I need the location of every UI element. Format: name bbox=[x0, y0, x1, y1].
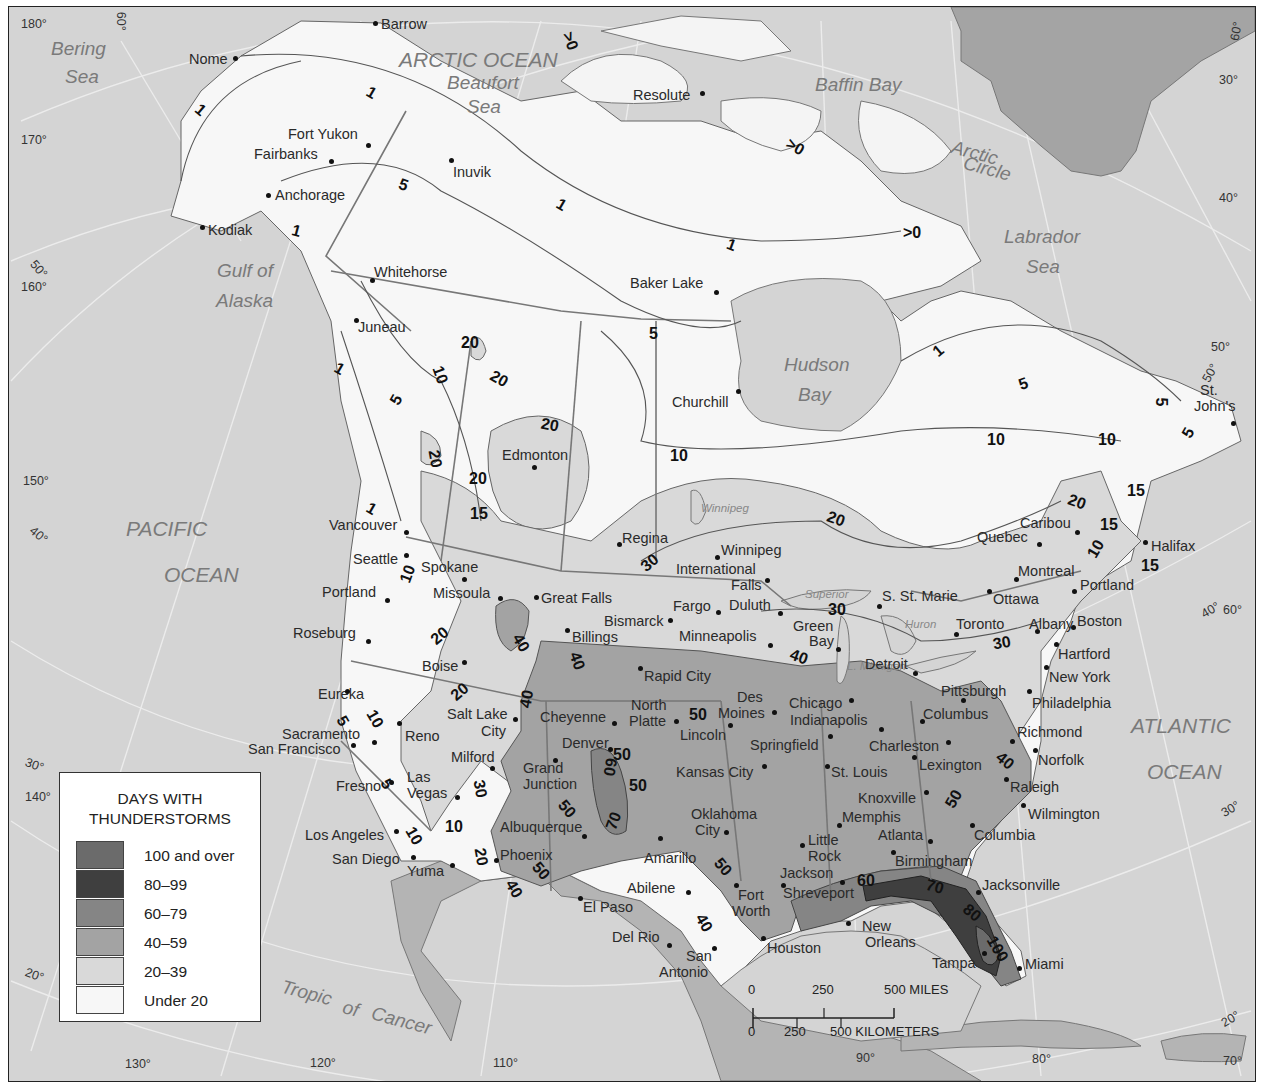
city-label: New York bbox=[1049, 670, 1110, 685]
legend-swatch-under-20 bbox=[76, 986, 124, 1014]
city-label: Birmingham bbox=[895, 854, 972, 869]
city-marker-icon bbox=[849, 698, 854, 703]
city-label: Fargo bbox=[673, 599, 711, 614]
isoline-value-label: 40 bbox=[517, 689, 536, 709]
city-marker-icon bbox=[667, 943, 672, 948]
city-label: Fairbanks bbox=[254, 147, 318, 162]
city-marker-icon bbox=[715, 555, 720, 560]
isoline-value-label: 60 bbox=[857, 873, 875, 889]
city-marker-icon bbox=[565, 628, 570, 633]
city-label: Falls bbox=[731, 578, 762, 593]
water-body-label: ATLANTIC bbox=[1131, 715, 1231, 736]
city-label: Memphis bbox=[842, 810, 901, 825]
city-label: Las bbox=[407, 770, 430, 785]
city-marker-icon bbox=[736, 389, 741, 394]
city-label: Philadelphia bbox=[1032, 696, 1111, 711]
city-marker-icon bbox=[712, 946, 717, 951]
city-label: Richmond bbox=[1017, 725, 1082, 740]
city-label: Fort bbox=[738, 888, 764, 903]
isoline-value-label: 15 bbox=[1141, 558, 1159, 574]
city-marker-icon bbox=[879, 727, 884, 732]
city-marker-icon bbox=[411, 855, 416, 860]
legend-title-line1: DAYS WITH bbox=[60, 789, 260, 809]
isoline-value-label: 20 bbox=[425, 449, 444, 469]
scale-km-0: 0 bbox=[748, 1024, 755, 1039]
lake-label: Winnipeg bbox=[701, 503, 749, 515]
city-label: Tampa bbox=[932, 956, 976, 971]
water-body-label: ARCTIC OCEAN bbox=[399, 49, 558, 70]
city-label: Sacramento bbox=[282, 727, 360, 742]
isoline-value-label: 30 bbox=[470, 779, 489, 799]
graticule-label: 80° bbox=[1032, 1053, 1051, 1066]
city-marker-icon bbox=[345, 689, 350, 694]
city-label: Roseburg bbox=[293, 626, 356, 641]
city-marker-icon bbox=[1071, 625, 1076, 630]
city-label: Columbus bbox=[923, 707, 988, 722]
city-label: Winnipeg bbox=[721, 543, 781, 558]
city-marker-icon bbox=[200, 225, 205, 230]
city-marker-icon bbox=[946, 740, 951, 745]
city-marker-icon bbox=[617, 542, 622, 547]
city-label: Moines bbox=[718, 706, 765, 721]
city-label: Ottawa bbox=[993, 592, 1039, 607]
city-marker-icon bbox=[373, 21, 378, 26]
city-marker-icon bbox=[658, 836, 663, 841]
city-label: Columbia bbox=[974, 828, 1035, 843]
city-label: Del Rio bbox=[612, 930, 660, 945]
city-label: Cheyenne bbox=[540, 710, 606, 725]
city-label: Regina bbox=[622, 531, 668, 546]
legend: DAYS WITH THUNDERSTORMS 100 and over 80–… bbox=[59, 772, 261, 1022]
city-marker-icon bbox=[800, 843, 805, 848]
city-label: North bbox=[631, 698, 666, 713]
city-marker-icon bbox=[404, 553, 409, 558]
city-label: Junction bbox=[523, 777, 577, 792]
city-marker-icon bbox=[724, 830, 729, 835]
legend-label-60-79: 60–79 bbox=[144, 905, 187, 923]
city-marker-icon bbox=[582, 834, 587, 839]
city-label: Springfield bbox=[750, 738, 819, 753]
isoline-value-label: 10 bbox=[445, 819, 463, 835]
water-body-label: Labrador bbox=[1004, 227, 1080, 246]
water-body-label: Bay bbox=[798, 385, 831, 404]
isoline-value-label: 15 bbox=[1100, 517, 1118, 533]
city-label: Bismarck bbox=[604, 614, 664, 629]
city-marker-icon bbox=[772, 710, 777, 715]
city-label: Billings bbox=[572, 630, 618, 645]
water-body-label: Bering bbox=[51, 39, 106, 58]
city-marker-icon bbox=[612, 721, 617, 726]
city-label: Rock bbox=[808, 849, 841, 864]
city-label: Albuquerque bbox=[500, 820, 582, 835]
city-marker-icon bbox=[913, 671, 918, 676]
legend-title: DAYS WITH THUNDERSTORMS bbox=[60, 789, 260, 829]
water-body-label: Alaska bbox=[216, 291, 273, 310]
city-label: Toronto bbox=[956, 617, 1004, 632]
city-label: Des bbox=[737, 690, 763, 705]
city-label: Halifax bbox=[1151, 539, 1195, 554]
city-marker-icon bbox=[532, 465, 537, 470]
legend-label-80-99: 80–99 bbox=[144, 876, 187, 894]
city-label: Churchill bbox=[672, 395, 728, 410]
city-marker-icon bbox=[1143, 540, 1148, 545]
city-marker-icon bbox=[490, 766, 495, 771]
city-label: Chicago bbox=[789, 696, 842, 711]
scale-km-500: 500 KILOMETERS bbox=[830, 1024, 939, 1039]
graticule-label: 110° bbox=[493, 1057, 518, 1070]
graticule-label: 90° bbox=[856, 1052, 875, 1065]
isoline-value-label: 10 bbox=[1098, 432, 1116, 448]
isoline-value-label: 10 bbox=[670, 448, 688, 464]
city-marker-icon bbox=[954, 632, 959, 637]
city-marker-icon bbox=[1231, 421, 1236, 426]
graticule-label: 60° bbox=[1229, 21, 1245, 42]
city-marker-icon bbox=[351, 743, 356, 748]
city-marker-icon bbox=[668, 618, 673, 623]
isoline-value-label: 20 bbox=[540, 416, 560, 435]
graticule-label: 40° bbox=[1219, 192, 1238, 205]
graticule-label: 130° bbox=[125, 1058, 151, 1071]
graticule-label: 60° bbox=[1223, 604, 1242, 617]
city-label: Baker Lake bbox=[630, 276, 703, 291]
city-label: Montreal bbox=[1018, 564, 1074, 579]
city-label: Whitehorse bbox=[374, 265, 447, 280]
city-marker-icon bbox=[534, 595, 539, 600]
city-label: Portland bbox=[322, 585, 376, 600]
legend-label-20-39: 20–39 bbox=[144, 963, 187, 981]
